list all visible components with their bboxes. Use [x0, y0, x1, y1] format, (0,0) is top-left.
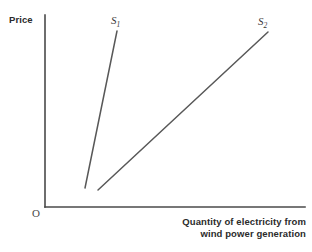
curve-label-s1-subscript: 1: [117, 20, 121, 29]
x-axis-title-line-1: Quantity of electricity from: [182, 216, 306, 227]
supply-curve-s2: [98, 32, 268, 190]
supply-curve-s1: [85, 31, 117, 188]
curve-label-s1: S1: [111, 14, 120, 29]
curve-label-s2: S2: [258, 15, 267, 30]
supply-curve-figure: Price Quantity of electricity from wind …: [0, 0, 312, 252]
curve-label-s2-subscript: 2: [264, 21, 268, 30]
x-axis-title: Quantity of electricity from wind power …: [156, 216, 306, 239]
x-axis-title-line-2: wind power generation: [200, 228, 306, 239]
chart-canvas: [0, 0, 312, 252]
origin-label: O: [32, 207, 40, 219]
y-axis-title: Price: [9, 14, 33, 26]
